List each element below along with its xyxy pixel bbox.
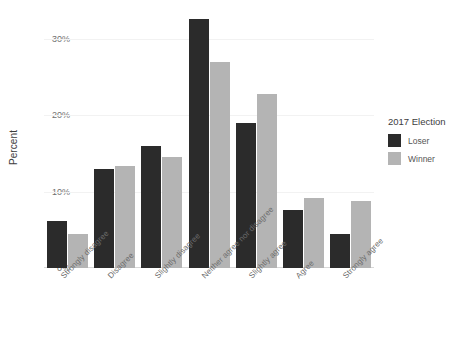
bar-group — [94, 8, 135, 268]
y-axis-title: Percent — [8, 108, 19, 188]
legend: 2017 Election LoserWinner — [388, 116, 462, 170]
bar-loser — [189, 19, 209, 268]
legend-title: 2017 Election — [388, 116, 462, 127]
bar-winner — [257, 94, 277, 268]
legend-entry: Loser — [388, 134, 462, 147]
bar-winner — [210, 62, 230, 268]
bar-group — [330, 8, 371, 268]
bar-group — [141, 8, 182, 268]
legend-label: Loser — [408, 136, 429, 146]
legend-swatch-winner — [388, 152, 401, 165]
bar-loser — [141, 146, 161, 268]
bar-group — [283, 8, 324, 268]
bar-group — [47, 8, 88, 268]
bar-groups — [44, 8, 374, 268]
bar-loser — [47, 221, 67, 268]
bar-loser — [330, 234, 350, 268]
bar-loser — [283, 210, 303, 268]
legend-entries: LoserWinner — [388, 134, 462, 165]
legend-label: Winner — [408, 154, 435, 164]
bar-group — [189, 8, 230, 268]
bar-winner — [304, 198, 324, 268]
legend-entry: Winner — [388, 152, 462, 165]
bar-loser — [94, 169, 114, 268]
plot-area — [44, 8, 374, 268]
legend-swatch-loser — [388, 134, 401, 147]
bar-chart: Percent 0%10%20%30% Strongly disagreeDis… — [0, 0, 462, 359]
